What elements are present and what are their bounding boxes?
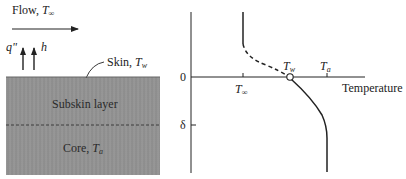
y-tick-delta: δ — [180, 119, 186, 131]
skin-leader-line — [86, 62, 104, 78]
x-tick-ta: Ta — [320, 60, 331, 74]
wall-temperature-point — [287, 74, 293, 80]
y-tick-zero: 0 — [180, 71, 186, 83]
x-tick-tinf: T∞ — [235, 83, 247, 97]
tissue-temperature-profile — [291, 79, 327, 172]
ta-subscript: a — [327, 65, 331, 74]
boundary-layer-profile — [243, 44, 288, 76]
tinf-symbol: T — [235, 82, 242, 96]
tinf-subscript: ∞ — [242, 88, 248, 97]
wall-point-label: Tw — [283, 60, 295, 74]
x-axis-title: Temperature — [342, 82, 402, 94]
ta-symbol: T — [320, 59, 327, 73]
tw-subscript: w — [290, 65, 295, 74]
tw-symbol: T — [283, 59, 290, 73]
